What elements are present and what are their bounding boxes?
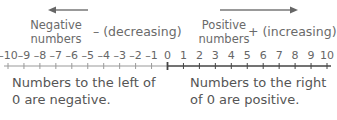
tick-label: –2 xyxy=(129,50,142,62)
negative-note: Numbers to the left of 0 are negative. xyxy=(12,74,156,108)
tick-label: 9 xyxy=(308,50,315,62)
positive-note: Numbers to the right of 0 are positive. xyxy=(190,74,326,108)
tick-label: 0 xyxy=(164,50,171,62)
negative-numbers-label: Negative numbers xyxy=(28,18,84,46)
tick-label: 6 xyxy=(260,50,267,62)
tick-label: –1 xyxy=(145,50,158,62)
tick-label: –8 xyxy=(34,50,47,62)
tick-label: –10 xyxy=(0,50,18,62)
negative-sign-label: – (decreasing) xyxy=(93,24,182,39)
tick-label: 4 xyxy=(228,50,235,62)
tick-label: 8 xyxy=(292,50,299,62)
tick-label: –6 xyxy=(66,50,79,62)
tick-label: –5 xyxy=(82,50,95,62)
tick-label: 10 xyxy=(320,50,334,62)
number-line: –10–9–8–7–6–5–4–3–2–1012345678910 xyxy=(0,50,336,74)
tick-label: 2 xyxy=(196,50,203,62)
tick-label: 7 xyxy=(276,50,283,62)
direction-arrows xyxy=(0,0,336,20)
tick-label: –9 xyxy=(18,50,31,62)
right-arrow-icon xyxy=(220,7,298,14)
left-arrow-icon xyxy=(48,7,88,14)
tick-label: –3 xyxy=(113,50,126,62)
positive-numbers-label: Positive numbers xyxy=(196,18,252,46)
tick-label: –7 xyxy=(50,50,63,62)
positive-sign-label: + (increasing) xyxy=(248,24,337,39)
tick-label: –4 xyxy=(97,50,110,62)
tick-label: 5 xyxy=(244,50,251,62)
tick-label: 3 xyxy=(212,50,219,62)
tick-label: 1 xyxy=(180,50,187,62)
